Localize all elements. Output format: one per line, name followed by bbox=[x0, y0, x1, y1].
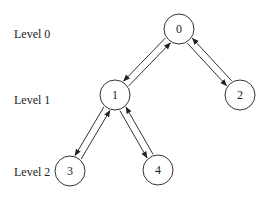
tree-diagram: Level 0 Level 1 Level 2 0 1 2 3 4 bbox=[0, 0, 269, 197]
edge-1-to-0 bbox=[129, 43, 171, 86]
nodes: 0 1 2 3 4 bbox=[55, 14, 255, 186]
node-2-label: 2 bbox=[237, 88, 243, 102]
edges bbox=[75, 38, 232, 159]
node-1-label: 1 bbox=[112, 88, 118, 102]
level-0-label: Level 0 bbox=[14, 27, 50, 41]
node-4: 4 bbox=[143, 155, 173, 185]
edge-4-to-1 bbox=[126, 107, 153, 154]
edge-0-to-2 bbox=[187, 43, 226, 85]
node-0-label: 0 bbox=[176, 22, 182, 36]
edge-1-to-3 bbox=[75, 107, 104, 155]
node-1: 1 bbox=[100, 80, 130, 110]
edge-3-to-1 bbox=[81, 111, 110, 159]
node-0: 0 bbox=[164, 14, 194, 44]
level-2-label: Level 2 bbox=[14, 165, 50, 179]
level-1-label: Level 1 bbox=[14, 93, 50, 107]
node-3-label: 3 bbox=[67, 164, 73, 178]
node-3: 3 bbox=[55, 156, 85, 186]
edge-2-to-0 bbox=[192, 38, 231, 80]
edge-0-to-1 bbox=[124, 38, 166, 81]
node-4-label: 4 bbox=[155, 163, 161, 177]
node-2: 2 bbox=[225, 80, 255, 110]
edge-1-to-4 bbox=[120, 111, 147, 158]
level-labels: Level 0 Level 1 Level 2 bbox=[14, 27, 50, 179]
